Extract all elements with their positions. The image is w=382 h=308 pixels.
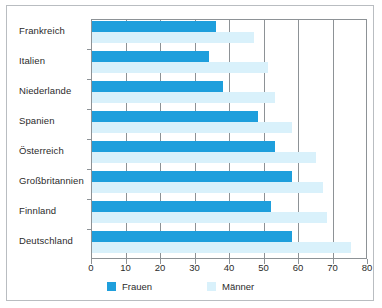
bar-row: Deutschland	[7, 229, 375, 259]
chart-legend: FrauenMänner	[7, 281, 375, 297]
category-label: Spanien	[19, 115, 87, 126]
x-tick-label: 30	[189, 262, 200, 273]
x-tick-label: 60	[293, 262, 304, 273]
x-tick-label: 10	[120, 262, 131, 273]
x-tick-label: 50	[258, 262, 269, 273]
x-tick-label: 0	[88, 262, 93, 273]
legend-label: Männer	[222, 281, 254, 292]
bar-maenner	[92, 122, 292, 133]
bar-row: Finnland	[7, 199, 375, 229]
legend-item[interactable]: Männer	[207, 281, 254, 292]
legend-swatch-icon	[107, 282, 116, 291]
bar-row: Großbritannien	[7, 169, 375, 199]
bar-maenner	[92, 242, 351, 253]
x-tick-label: 80	[362, 262, 373, 273]
bar-frauen	[92, 51, 209, 62]
chart-frame: FrankreichItalienNiederlandeSpanienÖster…	[6, 5, 374, 301]
category-label: Österreich	[19, 145, 87, 156]
chart-plot: FrankreichItalienNiederlandeSpanienÖster…	[7, 6, 375, 302]
bar-frauen	[92, 171, 292, 182]
bar-frauen	[92, 21, 216, 32]
category-label: Finnland	[19, 205, 87, 216]
bar-maenner	[92, 212, 327, 223]
bar-frauen	[92, 231, 292, 242]
bar-row: Italien	[7, 49, 375, 79]
bar-maenner	[92, 152, 316, 163]
bar-frauen	[92, 81, 223, 92]
bar-frauen	[92, 111, 258, 122]
bar-maenner	[92, 92, 275, 103]
category-label: Italien	[19, 55, 87, 66]
x-tick-label: 20	[155, 262, 166, 273]
bar-maenner	[92, 62, 268, 73]
category-label: Großbritannien	[19, 175, 87, 186]
x-tick-label: 40	[224, 262, 235, 273]
category-label: Frankreich	[19, 25, 87, 36]
bar-frauen	[92, 201, 271, 212]
category-label: Deutschland	[19, 235, 87, 246]
bar-row: Spanien	[7, 109, 375, 139]
x-tick-label: 70	[327, 262, 338, 273]
bar-row: Frankreich	[7, 19, 375, 49]
legend-item[interactable]: Frauen	[107, 281, 152, 292]
bar-frauen	[92, 141, 275, 152]
legend-label: Frauen	[122, 281, 152, 292]
bar-maenner	[92, 32, 254, 43]
bar-row: Österreich	[7, 139, 375, 169]
category-label: Niederlande	[19, 85, 87, 96]
bar-maenner	[92, 182, 323, 193]
x-axis-tick-labels: 01020304050607080	[7, 262, 375, 276]
bar-row: Niederlande	[7, 79, 375, 109]
legend-swatch-icon	[207, 282, 216, 291]
